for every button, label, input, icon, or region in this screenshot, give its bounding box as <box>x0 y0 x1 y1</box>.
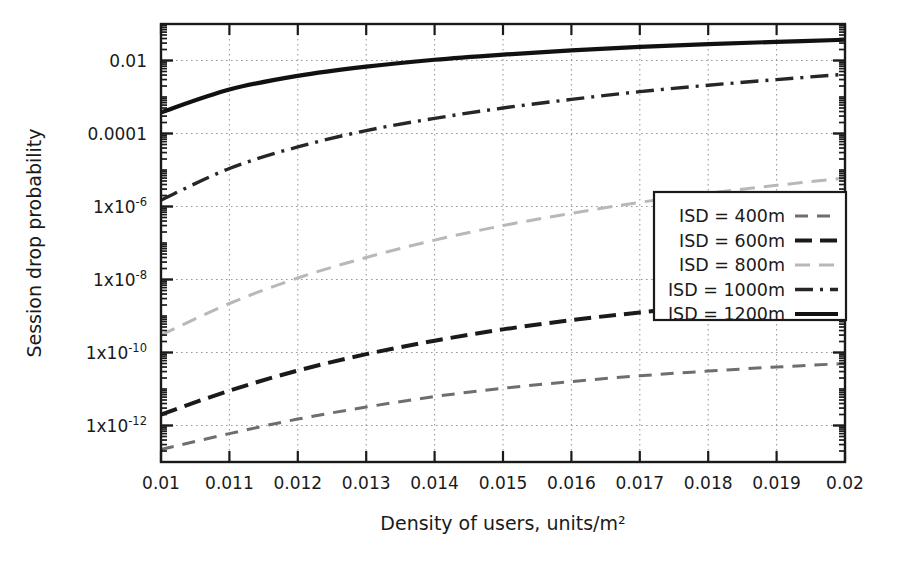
x-tick-label: 0.017 <box>615 473 664 493</box>
x-tick-label: 0.013 <box>342 473 391 493</box>
x-tick-label: 0.012 <box>273 473 322 493</box>
legend-label: ISD = 1000m <box>668 280 785 300</box>
legend-label: ISD = 400m <box>679 206 785 226</box>
legend-label: ISD = 1200m <box>668 304 785 324</box>
legend-label: ISD = 600m <box>679 231 785 251</box>
x-tick-label: 0.02 <box>826 473 864 493</box>
x-tick-label: 0.018 <box>684 473 733 493</box>
y-tick-label: 0.0001 <box>88 124 147 144</box>
legend-label: ISD = 800m <box>679 255 785 275</box>
x-tick-label: 0.01 <box>142 473 180 493</box>
chart-legend: ISD = 400mISD = 600mISD = 800mISD = 1000… <box>654 192 846 324</box>
x-axis-title: Density of users, units/m² <box>380 512 625 534</box>
session-drop-probability-chart: 0.010.0110.0120.0130.0140.0150.0160.0170… <box>0 0 900 573</box>
y-tick-label: 0.01 <box>109 51 147 71</box>
x-tick-label: 0.011 <box>205 473 254 493</box>
y-axis-title: Session drop probability <box>23 128 45 357</box>
x-tick-label: 0.014 <box>410 473 459 493</box>
x-tick-label: 0.019 <box>752 473 801 493</box>
x-axis-tick-labels: 0.010.0110.0120.0130.0140.0150.0160.0170… <box>142 473 864 493</box>
chart-figure: 0.010.0110.0120.0130.0140.0150.0160.0170… <box>0 0 900 573</box>
x-tick-label: 0.016 <box>547 473 596 493</box>
x-tick-label: 0.015 <box>479 473 528 493</box>
